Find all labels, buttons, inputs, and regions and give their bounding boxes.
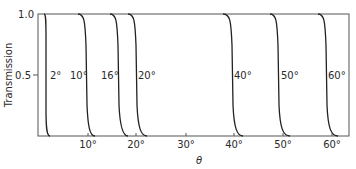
x-axis-label: θ [196, 155, 202, 166]
curve-label-60: 60° [328, 70, 346, 81]
x-tick-60: 60° [323, 139, 341, 150]
curve-label-40: 40° [234, 70, 252, 81]
x-tick-10: 10° [79, 139, 97, 150]
x-tick-40: 40° [225, 139, 243, 150]
y-tick-0.5: 0.5 [15, 70, 31, 81]
curve-label-16: 16° [101, 70, 119, 81]
transmission-chart: Transmission 1.0 0.5 10° 20° 30° 40° 50°… [0, 0, 356, 169]
curve-label-50: 50° [281, 70, 299, 81]
x-tick-20: 20° [127, 139, 145, 150]
curve-label-20: 20° [138, 70, 156, 81]
curve-label-2: 2° [50, 70, 61, 81]
curve-label-10: 10° [70, 70, 88, 81]
x-tick-50: 50° [274, 139, 292, 150]
y-tick-1.0: 1.0 [18, 9, 34, 20]
y-axis-label: Transmission [3, 43, 14, 109]
x-tick-30: 30° [177, 139, 195, 150]
